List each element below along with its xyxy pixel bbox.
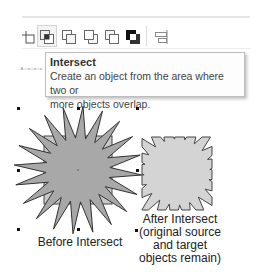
before-intersect-label: Before Intersect <box>25 236 135 249</box>
selection-handle-bl[interactable] <box>17 228 20 231</box>
selection-handle-tr[interactable] <box>136 107 139 110</box>
selection-handle-tl[interactable] <box>17 107 20 110</box>
selection-handle-ml[interactable] <box>17 169 20 172</box>
center-marker <box>77 169 79 171</box>
intersect-result-shape <box>142 137 212 210</box>
selection-handle-bc[interactable] <box>77 228 80 231</box>
selection-handle-mr[interactable] <box>136 169 139 172</box>
after-label-line4: objects remain) <box>138 252 222 265</box>
selection-handle-tc[interactable] <box>77 107 80 110</box>
after-intersect-label: After Intersect (original source and tar… <box>138 213 222 265</box>
